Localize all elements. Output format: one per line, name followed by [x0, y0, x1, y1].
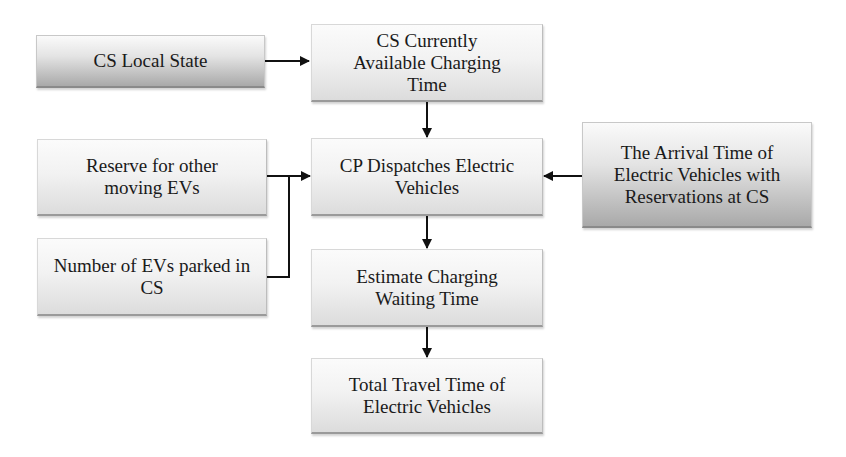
node-label: CS Currently Available Charging Time: [312, 30, 542, 96]
node-label: Estimate Charging Waiting Time: [312, 266, 542, 310]
node-label: CP Dispatches Electric Vehicles: [312, 155, 542, 199]
node-reserve-moving: Reserve for other moving EVs: [37, 139, 267, 216]
node-label: The Arrival Time of Electric Vehicles wi…: [583, 142, 811, 208]
node-total-travel: Total Travel Time of Electric Vehicles: [311, 358, 543, 434]
node-label: CS Local State: [86, 50, 216, 72]
connector-parked-to-dispatch: [267, 176, 289, 277]
node-estimate-wait: Estimate Charging Waiting Time: [311, 249, 543, 327]
node-cs-available-time: CS Currently Available Charging Time: [311, 24, 543, 102]
node-cp-dispatch: CP Dispatches Electric Vehicles: [311, 138, 543, 216]
node-arrival-time: The Arrival Time of Electric Vehicles wi…: [582, 122, 812, 228]
node-label: Number of EVs parked in CS: [38, 255, 266, 299]
node-evs-parked: Number of EVs parked in CS: [37, 238, 267, 316]
node-cs-local-state: CS Local State: [36, 35, 265, 88]
node-label: Reserve for other moving EVs: [38, 155, 266, 199]
node-label: Total Travel Time of Electric Vehicles: [312, 374, 542, 418]
